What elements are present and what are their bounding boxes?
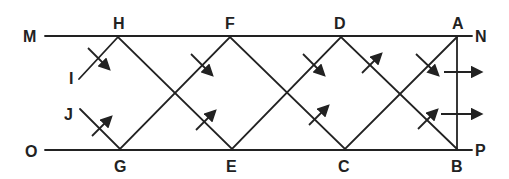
label-a: A [452, 15, 464, 32]
label-i: I [69, 70, 73, 87]
direction-arrow-2 [92, 117, 111, 136]
label-f: F [225, 15, 235, 32]
label-h: H [113, 15, 125, 32]
label-d: D [334, 15, 346, 32]
direction-arrow-8 [416, 54, 438, 75]
ray-path-j [80, 37, 457, 149]
direction-arrow-3 [191, 54, 212, 75]
label-j: J [64, 106, 73, 123]
label-g: G [114, 158, 126, 175]
label-m: M [23, 28, 36, 45]
label-o: O [25, 143, 37, 160]
label-n: N [475, 28, 487, 45]
label-e: E [226, 158, 237, 175]
direction-arrow-7 [362, 54, 381, 73]
label-c: C [338, 158, 350, 175]
label-p: P [475, 142, 486, 159]
direction-arrow-4 [196, 111, 215, 130]
wave-reflection-diagram: M N O P H F D A G E C B I J [0, 0, 509, 179]
label-b: B [451, 158, 463, 175]
